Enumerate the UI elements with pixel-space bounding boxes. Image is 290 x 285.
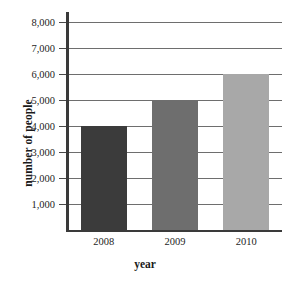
y-axis-tick-label: 5,000 [9, 95, 55, 106]
y-axis-tick-label: 4,000 [9, 121, 55, 132]
x-axis-line [66, 230, 282, 232]
bar [152, 100, 198, 230]
y-axis-tick-label: 1,000 [9, 199, 55, 210]
plot-area [68, 22, 282, 230]
x-axis-category-label: 2008 [74, 236, 134, 247]
x-axis-title: year [0, 258, 290, 270]
y-axis-tick-label: 7,000 [9, 43, 55, 54]
y-axis-tick-label: 3,000 [9, 147, 55, 158]
x-axis-category-label: 2009 [145, 236, 205, 247]
bar-chart-figure: number of people 1,0002,0003,0004,0005,0… [0, 0, 290, 285]
y-axis-tick-label: 2,000 [9, 173, 55, 184]
bar [81, 126, 127, 230]
y-axis-tick-label: 8,000 [9, 17, 55, 28]
y-axis-tick-label: 6,000 [9, 69, 55, 80]
x-axis-category-label: 2010 [216, 236, 276, 247]
bar [223, 74, 269, 230]
